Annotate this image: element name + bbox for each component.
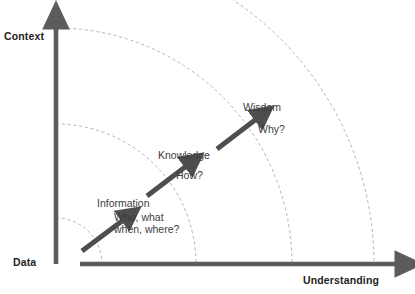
stage-information-name: Information <box>97 198 150 210</box>
stage-information-question-line-2: when, where? <box>114 224 179 236</box>
diagram-canvas <box>0 0 415 294</box>
arc-2 <box>56 124 196 264</box>
stage-information-question-line-1: Who, what <box>114 212 179 224</box>
y-axis-label: Context <box>4 31 44 43</box>
stage-wisdom-question: Why? <box>258 124 285 136</box>
arrow-knowledge-to-wisdom <box>217 117 259 149</box>
stage-information-question: Who, what when, where? <box>114 212 179 236</box>
dikw-diagram: Context Data Understanding Information W… <box>0 0 415 294</box>
origin-label-data: Data <box>13 257 36 269</box>
stage-wisdom-name: Wisdom <box>243 102 281 114</box>
stage-knowledge-question-line-1: How? <box>176 170 203 182</box>
stage-knowledge-name: Knowledge <box>158 150 210 162</box>
stage-knowledge-question: How? <box>176 170 203 182</box>
stage-wisdom-question-line-1: Why? <box>258 124 285 136</box>
x-axis-label: Understanding <box>303 275 379 287</box>
axes <box>56 24 400 264</box>
context-arcs <box>56 0 374 264</box>
